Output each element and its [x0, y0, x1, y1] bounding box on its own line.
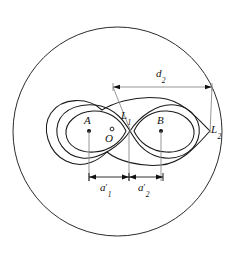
label-segment-a2-subscript: 2 — [146, 190, 150, 199]
arrowhead-a2-right — [156, 175, 163, 180]
label-lagrange-inner-subscript: 1 — [127, 118, 131, 127]
inner-oval-left — [66, 111, 126, 152]
label-center: O — [105, 133, 113, 144]
figure-container: A B O L1 L2 d2 a′1 a′2 — [0, 0, 235, 265]
label-distance-d2-letter: d — [156, 67, 162, 79]
label-distance-d2-subscript: 2 — [162, 76, 166, 85]
label-lagrange-inner: L1 — [121, 110, 131, 124]
label-focus-right: B — [157, 115, 164, 126]
arrowhead-a1-left — [89, 175, 96, 180]
figure-canvas — [0, 0, 235, 265]
arrowhead-a1-right — [122, 175, 129, 180]
label-focus-left: A — [84, 115, 91, 126]
bounding-circle — [13, 27, 222, 236]
label-segment-a2: a′2 — [138, 182, 149, 196]
label-segment-a1: a′1 — [100, 182, 111, 196]
label-segment-a1-letter: a — [100, 181, 106, 193]
label-segment-a1-subscript: 1 — [108, 190, 112, 199]
label-distance-d2: d2 — [156, 68, 165, 82]
inner-oval-right — [134, 111, 194, 152]
center-point-ring — [110, 127, 114, 131]
label-lagrange-outer: L2 — [211, 124, 221, 138]
arrowhead-a2-left — [129, 175, 136, 180]
label-segment-a2-letter: a — [138, 181, 144, 193]
label-lagrange-outer-subscript: 2 — [217, 132, 221, 141]
